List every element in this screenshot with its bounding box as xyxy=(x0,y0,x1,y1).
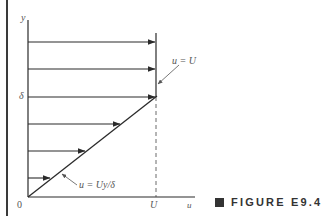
caption-text: FIGURE E9.4 xyxy=(231,196,322,208)
origin-label: 0 xyxy=(17,200,22,210)
figure-caption: FIGURE E9.4 xyxy=(215,197,322,208)
y-axis-label: y xyxy=(21,13,25,23)
u-tick-label: U xyxy=(150,200,157,210)
lower-annotation: u = Uy/δ xyxy=(79,180,115,190)
upper-annotation: u = U xyxy=(172,56,196,66)
lower-annotation-leader xyxy=(62,174,77,185)
delta-label: δ xyxy=(19,91,24,101)
upper-annotation-leader xyxy=(158,65,179,84)
x-axis-label: u xyxy=(187,201,192,210)
velocity-profile-diagram xyxy=(0,0,332,216)
caption-square-icon xyxy=(215,198,224,207)
